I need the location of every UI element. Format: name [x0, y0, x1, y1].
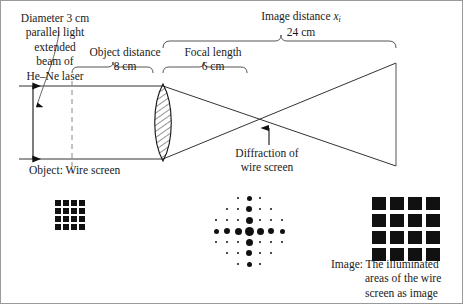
- optics-figure: Diameter 3 cm parallel light extended be…: [0, 0, 463, 304]
- image-grid-cell: [390, 248, 404, 261]
- diffraction-dot: [270, 208, 273, 211]
- diffraction-label: Diffraction of wire screen: [214, 147, 320, 175]
- object-label: Object: Wire screen: [29, 164, 120, 177]
- image-distance-subscript: i: [339, 15, 341, 24]
- object-grid-cell: [63, 208, 69, 214]
- diffraction-dot: [237, 219, 240, 222]
- diffraction-dot: [215, 241, 218, 244]
- object-grid-cell: [55, 208, 61, 214]
- image-distance-label: Image distance xi 24 cm: [216, 9, 386, 39]
- object-grid-cell: [79, 208, 85, 214]
- diffraction-dot: [268, 228, 274, 234]
- object-grid-cell: [63, 200, 69, 206]
- object-grid-cell: [55, 224, 61, 230]
- diffraction-dot: [281, 241, 284, 244]
- image-grid-cell: [408, 231, 422, 244]
- diffraction-dot: [246, 239, 253, 246]
- diffraction-dot: [237, 241, 240, 244]
- image-grid-cell: [372, 214, 386, 227]
- diffraction-dot: [259, 208, 262, 211]
- object-grid-cell: [71, 200, 77, 206]
- diffraction-dot: [226, 208, 229, 211]
- image-grid-cell: [408, 197, 422, 210]
- image-grid-cell: [372, 231, 386, 244]
- diffraction-dot: [246, 250, 252, 256]
- image-grid-cell: [408, 214, 422, 227]
- diffraction-dot: [247, 262, 252, 267]
- object-grid-cell: [79, 216, 85, 222]
- object-grid-cell: [79, 224, 85, 230]
- diffraction-dot: [237, 208, 240, 211]
- diffraction-dot: [246, 206, 252, 212]
- diffraction-dot: [281, 219, 284, 222]
- image-grid-cell: [390, 214, 404, 227]
- diffraction-dot: [226, 241, 229, 244]
- diffraction-dot: [259, 252, 262, 255]
- diffraction-dot: [270, 219, 273, 222]
- object-grid-cell: [55, 200, 61, 206]
- diffraction-dot: [237, 252, 240, 255]
- diffraction-dot: [245, 227, 254, 236]
- image-grid-cell: [408, 248, 422, 261]
- image-caption: Image: The illuminated areas of the wire…: [331, 257, 459, 300]
- diffraction-dot: [224, 228, 230, 234]
- diffraction-dot: [237, 263, 240, 266]
- object-grid-cell: [71, 224, 77, 230]
- object-grid-cell: [55, 216, 61, 222]
- diffraction-dot: [257, 228, 264, 235]
- image-wire-screen-grid: [372, 197, 440, 261]
- diffraction-dot: [214, 229, 219, 234]
- object-grid-cell: [71, 208, 77, 214]
- beam-edges: [19, 86, 163, 159]
- diffraction-pattern: [204, 187, 296, 277]
- diffraction-dot: [280, 229, 285, 234]
- object-distance-label: Object distance 8 cm: [73, 45, 177, 73]
- diffraction-dot: [259, 219, 262, 222]
- diffraction-dot: [226, 219, 229, 222]
- image-grid-cell: [390, 197, 404, 210]
- image-grid-cell: [372, 197, 386, 210]
- diffraction-dot: [259, 241, 262, 244]
- focal-length-label: Focal length 6 cm: [169, 45, 257, 73]
- object-grid-cell: [63, 216, 69, 222]
- diffraction-dot: [226, 252, 229, 255]
- object-grid-cell: [71, 216, 77, 222]
- converging-lens: [155, 84, 172, 161]
- diffraction-dot: [247, 196, 252, 201]
- object-grid-cell: [63, 224, 69, 230]
- diffraction-dot: [270, 252, 273, 255]
- diffraction-dot: [246, 217, 253, 224]
- object-wire-screen-grid: [55, 200, 85, 230]
- diffraction-dot: [237, 197, 240, 200]
- image-grid-cell: [390, 231, 404, 244]
- image-grid-cell: [426, 214, 440, 227]
- image-grid-cell: [426, 197, 440, 210]
- diffraction-dot: [235, 228, 242, 235]
- image-grid-cell: [426, 248, 440, 261]
- diffraction-dot: [215, 219, 218, 222]
- image-grid-cell: [372, 248, 386, 261]
- diffraction-dot: [259, 263, 262, 266]
- diffraction-dot: [259, 197, 262, 200]
- diffraction-dot: [270, 241, 273, 244]
- image-grid-cell: [426, 231, 440, 244]
- object-grid-cell: [79, 200, 85, 206]
